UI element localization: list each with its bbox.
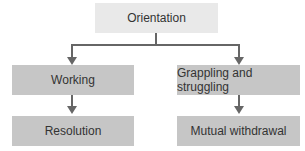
arrow-down-icon: [67, 106, 77, 114]
node-label: Grappling and struggling: [177, 66, 300, 94]
node-orientation: Orientation: [95, 3, 218, 33]
node-label: Resolution: [45, 124, 102, 138]
arrow-down-icon: [234, 57, 244, 65]
arrow-down-icon: [67, 57, 77, 65]
connector-left-drop: [71, 44, 73, 58]
node-label: Working: [51, 73, 95, 87]
node-resolution: Resolution: [12, 116, 134, 146]
node-label: Orientation: [127, 11, 186, 25]
node-grappling: Grappling and struggling: [177, 65, 300, 95]
connector-horizontal: [71, 44, 240, 46]
node-working: Working: [12, 65, 134, 95]
node-mutual-withdrawal: Mutual withdrawal: [177, 116, 300, 146]
node-label: Mutual withdrawal: [190, 124, 286, 138]
arrow-down-icon: [234, 106, 244, 114]
connector-right-drop: [238, 44, 240, 58]
